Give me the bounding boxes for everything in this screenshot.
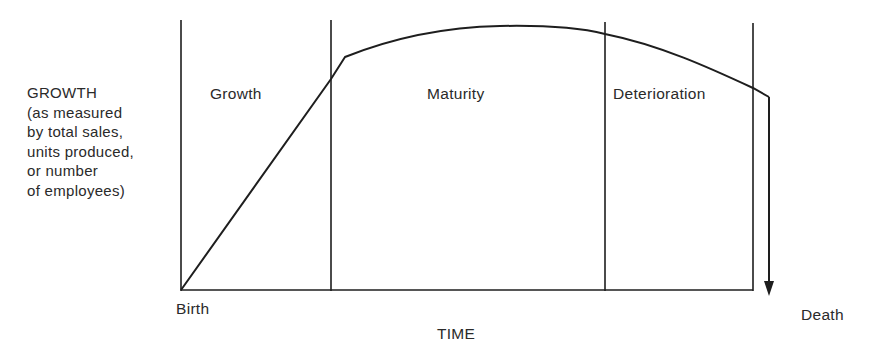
x-axis-title: TIME xyxy=(437,324,475,343)
x-axis-start-label: Birth xyxy=(176,299,209,318)
x-axis-end-label: Death xyxy=(801,305,844,324)
y-axis-subtitle-line: by total sales, xyxy=(27,122,134,142)
stage-label-maturity: Maturity xyxy=(427,84,485,103)
stage-label-growth: Growth xyxy=(210,84,262,103)
stage-label-deterioration: Deterioration xyxy=(613,84,706,103)
y-axis-title: GROWTH xyxy=(27,83,134,103)
growth-curve xyxy=(181,26,769,290)
y-axis-label: GROWTH (as measured by total sales, unit… xyxy=(27,83,134,200)
y-axis-subtitle-line: or number xyxy=(27,161,134,181)
y-axis-subtitle-line: (as measured xyxy=(27,103,134,123)
y-axis-subtitle-line: of employees) xyxy=(27,181,134,201)
death-arrowhead-icon xyxy=(764,281,774,296)
y-axis-subtitle-line: units produced, xyxy=(27,142,134,162)
